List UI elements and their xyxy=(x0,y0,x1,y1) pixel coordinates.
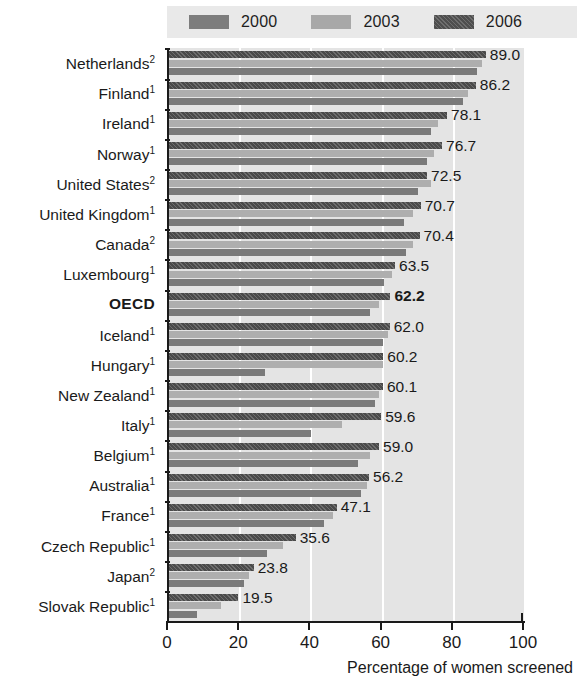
bar-2000 xyxy=(169,369,265,376)
bar-2003 xyxy=(169,241,413,248)
category-label-text: Norway xyxy=(97,146,150,163)
bar-2006 xyxy=(169,594,238,601)
footnote-marker: 1 xyxy=(149,537,155,548)
footnote-marker: 1 xyxy=(149,84,155,95)
category-axis-labels: Netherlands2Finland1Ireland1Norway1Unite… xyxy=(0,48,161,621)
footnote-marker: 1 xyxy=(149,356,155,367)
footnote-marker: 1 xyxy=(149,416,155,427)
x-tick-20 xyxy=(237,621,239,630)
category-tick xyxy=(165,501,170,503)
x-tick-100 xyxy=(522,621,524,630)
bar-2003 xyxy=(169,542,283,549)
category-label-text: Ireland xyxy=(102,116,149,133)
bar-2000 xyxy=(169,520,324,527)
category-label-text: Italy xyxy=(121,417,149,434)
bar-2000 xyxy=(169,249,406,256)
value-label: 72.5 xyxy=(431,167,461,185)
legend-item-2000: 2000 xyxy=(189,13,277,31)
bar-group xyxy=(169,289,525,319)
footnote-marker: 1 xyxy=(149,205,155,216)
category-label-luxembourg: Luxembourg1 xyxy=(63,266,155,283)
value-label: 89.0 xyxy=(490,46,520,64)
category-tick xyxy=(165,169,170,171)
bar-group xyxy=(169,561,525,591)
legend-swatch-2006-icon xyxy=(434,15,474,29)
category-label-text: Slovak Republic xyxy=(38,598,149,615)
bar-group xyxy=(169,229,525,259)
bar-2000 xyxy=(169,430,311,437)
bar-2006 xyxy=(169,142,442,149)
category-label-text: United States xyxy=(56,176,149,193)
footnote-marker: 1 xyxy=(149,145,155,156)
bar-group xyxy=(169,350,525,380)
category-label-netherlands: Netherlands2 xyxy=(66,55,155,72)
bar-2000 xyxy=(169,219,404,226)
category-tick xyxy=(165,531,170,533)
category-label-new-zealand: New Zealand1 xyxy=(58,387,155,404)
x-tick-label-100: 100 xyxy=(509,633,537,653)
bar-2006 xyxy=(169,293,390,300)
chart-legend: 2000 2003 2006 xyxy=(167,6,577,38)
bar-2006 xyxy=(169,232,420,239)
bar-2006 xyxy=(169,353,383,360)
category-tick xyxy=(165,440,170,442)
value-label: 63.5 xyxy=(399,257,429,275)
value-label: 23.8 xyxy=(258,559,288,577)
category-label-text: United Kingdom xyxy=(39,206,149,223)
legend-label-2006: 2006 xyxy=(486,13,522,31)
legend-swatch-2003-icon xyxy=(311,15,351,29)
bar-2000 xyxy=(169,580,244,587)
category-label-text: OECD xyxy=(109,295,155,312)
category-tick xyxy=(165,139,170,141)
bar-2003 xyxy=(169,482,367,489)
value-label: 60.2 xyxy=(387,348,417,366)
footnote-marker: 1 xyxy=(149,597,155,608)
value-label: 59.6 xyxy=(385,408,415,426)
bar-2003 xyxy=(169,421,342,428)
category-label-hungary: Hungary1 xyxy=(91,357,155,374)
value-label: 56.2 xyxy=(373,468,403,486)
category-label-text: France xyxy=(101,508,149,525)
bar-2003 xyxy=(169,512,333,519)
bar-2000 xyxy=(169,188,418,195)
category-tick xyxy=(165,109,170,111)
category-label-united-kingdom: United Kingdom1 xyxy=(39,206,155,223)
x-axis-title: Percentage of women screened xyxy=(0,659,577,677)
chart-root: 2000 2003 2006 Netherlands2Finland1Irela… xyxy=(0,0,577,692)
bar-2006 xyxy=(169,413,381,420)
bar-2006 xyxy=(169,82,476,89)
footnote-marker: 1 xyxy=(149,265,155,276)
bar-group xyxy=(169,380,525,410)
bar-2006 xyxy=(169,172,427,179)
bar-group xyxy=(169,169,525,199)
footnote-marker: 1 xyxy=(149,506,155,517)
category-label-czech-republic: Czech Republic1 xyxy=(41,538,155,555)
category-label-text: New Zealand xyxy=(58,387,149,404)
category-label-italy: Italy1 xyxy=(121,417,155,434)
bar-2003 xyxy=(169,301,379,308)
bar-2003 xyxy=(169,150,434,157)
bar-2000 xyxy=(169,550,267,557)
bar-group xyxy=(169,531,525,561)
x-tick-label-80: 80 xyxy=(442,633,461,653)
bar-2003 xyxy=(169,602,221,609)
category-tick xyxy=(165,471,170,473)
bar-group xyxy=(169,319,525,349)
bar-2006 xyxy=(169,383,383,390)
value-label: 76.7 xyxy=(446,137,476,155)
category-tick xyxy=(165,561,170,563)
category-label-norway: Norway1 xyxy=(97,146,155,163)
category-label-text: Czech Republic xyxy=(41,538,150,555)
category-label-text: Luxembourg xyxy=(63,266,149,283)
x-tick-label-40: 40 xyxy=(300,633,319,653)
bar-2003 xyxy=(169,331,388,338)
footnote-marker: 2 xyxy=(149,54,155,65)
category-label-iceland: Iceland1 xyxy=(99,327,155,344)
bar-2006 xyxy=(169,443,379,450)
x-tick-80 xyxy=(451,621,453,630)
bar-2000 xyxy=(169,460,358,467)
bar-2000 xyxy=(169,400,375,407)
category-label-text: Hungary xyxy=(91,357,150,374)
category-label-france: France1 xyxy=(101,507,155,524)
footnote-marker: 1 xyxy=(149,446,155,457)
